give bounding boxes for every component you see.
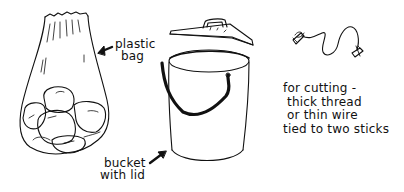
label-line: bag xyxy=(115,50,156,62)
label-line: tied to two sticks xyxy=(283,123,389,137)
cutting-wire-icon xyxy=(293,27,363,57)
plastic-bag-label: plastic bag xyxy=(115,38,156,62)
cutting-wire-label: for cutting - thick thread or thin wire … xyxy=(283,82,389,136)
arrow-icon xyxy=(150,151,166,163)
label-line: for cutting - xyxy=(283,82,389,96)
label-line: thick thread xyxy=(283,96,389,110)
label-line: with lid xyxy=(100,169,146,181)
bucket-lid-icon xyxy=(170,19,253,45)
arrow-icon xyxy=(98,46,112,55)
illustration-canvas: plastic bag bucket with lid for cutting … xyxy=(0,0,404,192)
plastic-bag-icon xyxy=(20,12,109,154)
label-line: or thin wire xyxy=(283,109,389,123)
bucket-label: bucket with lid xyxy=(100,157,146,181)
bucket-icon xyxy=(162,50,249,161)
